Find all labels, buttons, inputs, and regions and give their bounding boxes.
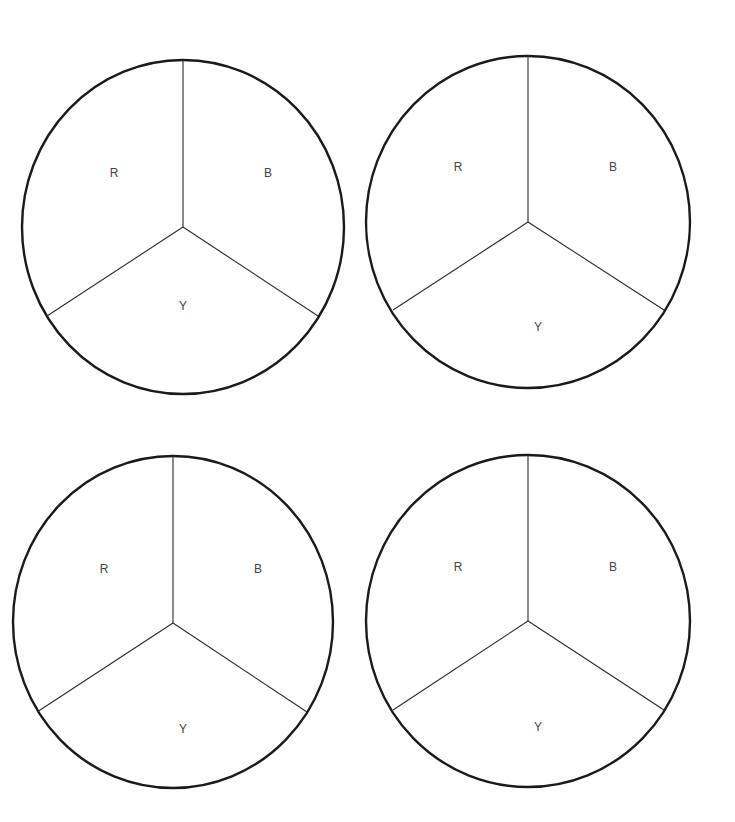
color-wheel-worksheet: RBYRBYRBYRBY bbox=[0, 0, 735, 822]
segment-label-y: Y bbox=[179, 722, 187, 736]
color-wheel-top-left: RBY bbox=[22, 60, 344, 394]
segment-label-b: B bbox=[609, 160, 617, 174]
segment-label-y: Y bbox=[534, 320, 542, 334]
color-wheel-bottom-left: RBY bbox=[13, 456, 333, 788]
color-wheel-bottom-right: RBY bbox=[366, 455, 690, 787]
segment-label-b: B bbox=[609, 560, 617, 574]
segment-label-r: R bbox=[100, 562, 109, 576]
segment-label-y: Y bbox=[179, 299, 187, 313]
segment-label-b: B bbox=[254, 562, 262, 576]
segment-label-r: R bbox=[454, 560, 463, 574]
segment-label-r: R bbox=[110, 166, 119, 180]
color-wheel-top-right: RBY bbox=[366, 55, 690, 388]
segment-label-b: B bbox=[264, 166, 272, 180]
segment-label-r: R bbox=[454, 160, 463, 174]
segment-label-y: Y bbox=[534, 720, 542, 734]
